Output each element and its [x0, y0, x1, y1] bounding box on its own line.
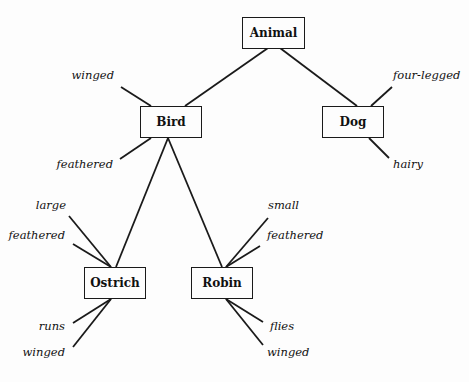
- attr-line-dog-four-legged: [371, 87, 392, 106]
- attr-robin-feathered: feathered: [267, 228, 323, 242]
- node-dog: Dog: [322, 106, 384, 138]
- attr-bird-winged: winged: [72, 68, 114, 82]
- attr-ostrich-runs: runs: [39, 319, 65, 333]
- attr-line-ostrich-feathered: [73, 244, 111, 267]
- attr-line-ostrich-large: [69, 216, 111, 267]
- attr-line-ostrich-winged: [73, 299, 111, 347]
- attr-ostrich-large: large: [36, 198, 66, 212]
- diagram-lines: [0, 0, 469, 382]
- attr-line-ostrich-runs: [73, 299, 111, 323]
- attr-line-bird-winged: [121, 87, 151, 106]
- attr-line-robin-flies: [226, 299, 263, 322]
- edge-animal-dog: [280, 48, 357, 106]
- node-bird: Bird: [140, 106, 202, 138]
- attr-line-robin-small: [226, 218, 268, 267]
- attr-bird-feathered: feathered: [57, 157, 113, 171]
- node-ostrich: Ostrich: [84, 267, 146, 299]
- attr-robin-small: small: [268, 198, 299, 212]
- node-animal: Animal: [242, 17, 305, 49]
- edge-animal-bird: [185, 48, 268, 106]
- attr-ostrich-winged: winged: [23, 345, 65, 359]
- attr-dog-four-legged: four-legged: [393, 68, 460, 82]
- attr-line-bird-feathered: [120, 138, 151, 159]
- edge-bird-robin: [168, 138, 222, 267]
- node-robin: Robin: [191, 267, 253, 299]
- attr-robin-flies: flies: [270, 319, 294, 333]
- attr-robin-winged: winged: [267, 345, 309, 359]
- attr-ostrich-feathered: feathered: [9, 228, 65, 242]
- attr-dog-hairy: hairy: [393, 157, 423, 171]
- attr-line-dog-hairy: [369, 138, 389, 158]
- attr-line-robin-winged: [226, 299, 263, 345]
- attr-line-robin-feathered: [226, 246, 260, 267]
